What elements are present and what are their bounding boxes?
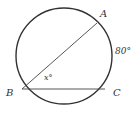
chord-ba <box>22 23 97 89</box>
point-label-a: A <box>99 8 107 19</box>
arc-label-80: 80° <box>115 46 131 56</box>
point-label-c: C <box>113 87 121 98</box>
angle-label-x: x° <box>44 73 53 82</box>
point-label-b: B <box>5 87 13 98</box>
circle-diagram: A B C 80° x° <box>0 0 136 118</box>
circle <box>16 8 112 104</box>
